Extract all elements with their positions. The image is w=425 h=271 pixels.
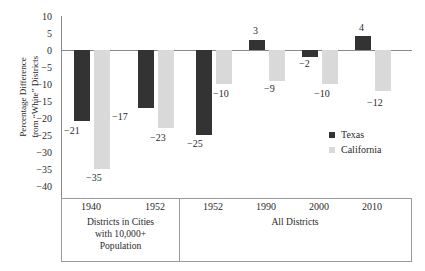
y-tick-label-5: 5 [22,29,52,39]
x-tick-label-1952-all: 1952 [191,201,235,213]
category-group-label-cities-line-1: Districts in Cities [62,216,179,228]
bar-california-1952-all [216,50,232,84]
y-tick-label-neg15: −15 [22,97,52,107]
legend-swatch-texas-icon [329,132,335,138]
x-tick-label-1940: 1940 [69,201,113,213]
bar-texas-1940-cities [74,50,90,121]
bar-texas-2010 [355,36,371,50]
bar-california-2010 [375,50,391,91]
bar-texas-1952-cities [138,50,154,108]
category-group-label-cities-line-3: Population [62,240,179,252]
bar-california-2000 [322,50,338,84]
bar-label-california-1952-cities: −23 [150,133,166,143]
y-tick-label-neg25: −25 [22,131,52,141]
bar-california-1952-cities [158,50,174,128]
legend-label-texas: Texas [341,127,364,142]
y-tick-label-10: 10 [22,12,52,22]
bar-label-california-2010: −12 [367,98,383,108]
y-tick-label-neg5: −5 [22,63,52,73]
y-tick-label-neg40: −40 [22,182,52,192]
y-tick-label-neg20: −20 [22,114,52,124]
bar-texas-1990 [249,40,265,50]
bar-california-1990 [269,50,285,81]
category-ticks-all-districts: 1952 1990 2000 2010 [179,199,411,215]
bar-texas-1952-all [196,50,212,135]
bar-label-california-1940-cities: −35 [86,173,102,183]
category-ticks-cities: 1940 1952 [62,199,179,215]
bar-label-texas-1990: 3 [253,26,258,36]
bar-label-texas-2000: −2 [299,59,310,69]
bar-label-california-2000: −10 [314,89,330,99]
category-group-label-all-districts: All Districts [179,216,411,228]
plot-area: −21 −35 −17 −23 −25 −10 3 −9 −2 −10 4 −1… [61,16,412,198]
y-tick-label-neg35: −35 [22,165,52,175]
category-group-all-districts: 1952 1990 2000 2010 All Districts [179,199,411,261]
bar-california-1940-cities [94,50,110,169]
legend-swatch-california-icon [329,147,335,153]
legend-item-texas: Texas [329,127,382,142]
category-group-label-cities-line-2: with 10,000+ [62,228,179,240]
bar-label-california-1990: −9 [264,84,275,94]
category-group-label-all-districts-line-1: All Districts [179,216,411,228]
bar-label-texas-1952-all: −25 [187,139,203,149]
y-tick-label-neg10: −10 [22,80,52,90]
y-tick-label-neg30: −30 [22,148,52,158]
bar-label-texas-1940-cities: −21 [64,126,80,136]
y-tick-label-0: 0 [22,46,52,56]
category-axis-box: 1940 1952 Districts in Cities with 10,00… [61,198,412,262]
bar-label-california-1952-all: −10 [213,89,229,99]
legend-item-california: California [329,142,382,157]
bar-chart-figure: Percentage Difference from “White” Distr… [0,0,425,271]
x-tick-label-2010: 2010 [350,201,394,213]
bar-label-texas-2010: 4 [359,23,364,33]
category-group-label-cities: Districts in Cities with 10,000+ Populat… [62,216,179,253]
x-tick-label-1990: 1990 [244,201,288,213]
x-tick-label-1952-cities: 1952 [133,201,177,213]
legend: Texas California [329,127,382,157]
bar-texas-2000 [302,50,318,57]
bar-label-texas-1952-cities: −17 [112,112,128,122]
category-group-cities: 1940 1952 Districts in Cities with 10,00… [62,199,179,261]
legend-label-california: California [341,142,382,157]
x-tick-label-2000: 2000 [297,201,341,213]
